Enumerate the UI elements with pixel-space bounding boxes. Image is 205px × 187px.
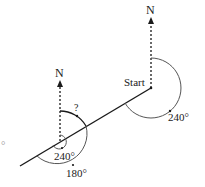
diagram-graphics bbox=[0, 0, 205, 187]
start-bearing-label: 240° bbox=[168, 112, 189, 123]
start-point-dot bbox=[150, 87, 153, 90]
unknown-bearing-arc bbox=[60, 111, 86, 126]
outer-arc-arrow-dot bbox=[72, 164, 74, 166]
bearing-diagram: N Start 240° N ? 240° 180° ° bbox=[0, 0, 205, 187]
second-north-arrowhead-icon bbox=[57, 80, 63, 87]
unknown-bearing-label: ? bbox=[74, 103, 78, 113]
start-north-arrowhead-icon bbox=[148, 17, 154, 24]
path-line bbox=[20, 88, 151, 166]
inner-angle-label: 240° bbox=[54, 151, 75, 162]
second-north-label: N bbox=[55, 67, 64, 79]
start-bearing-arc bbox=[125, 58, 181, 118]
start-north-label: N bbox=[146, 4, 155, 16]
outer-angle-label: 180° bbox=[66, 168, 87, 179]
edge-degree-label: ° bbox=[1, 140, 5, 151]
start-label: Start bbox=[124, 77, 145, 88]
unknown-arc-arrow-dot bbox=[76, 115, 78, 117]
inner-arc-arrow-dot bbox=[61, 147, 63, 149]
